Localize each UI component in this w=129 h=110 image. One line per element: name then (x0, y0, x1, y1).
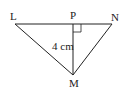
vertex-label-l: L (10, 10, 17, 22)
vertex-label-m: M (69, 77, 79, 89)
altitude-label: 4 cm (52, 40, 74, 52)
triangle-diagram: L N M P 4 cm (0, 0, 129, 110)
vertex-label-n: N (111, 11, 119, 23)
foot-label-p: P (70, 9, 76, 21)
right-angle-mark (73, 24, 81, 32)
